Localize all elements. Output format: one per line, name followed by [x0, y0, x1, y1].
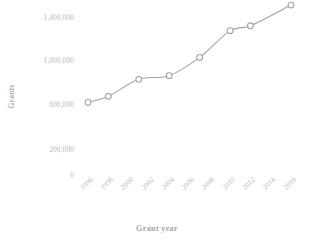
data-point-marker [197, 55, 203, 61]
data-point-marker [166, 73, 172, 79]
data-point-marker [227, 28, 233, 34]
data-line [88, 5, 291, 102]
data-markers [85, 2, 294, 105]
data-point-marker [85, 100, 91, 106]
data-point-marker [288, 2, 294, 8]
data-point-marker [248, 23, 254, 29]
data-point-marker [105, 93, 111, 99]
chart-container: Grants 1,400,000 1,000,000 600,000 200,0… [0, 0, 314, 245]
plot-area [0, 0, 314, 245]
data-point-marker [136, 76, 142, 82]
